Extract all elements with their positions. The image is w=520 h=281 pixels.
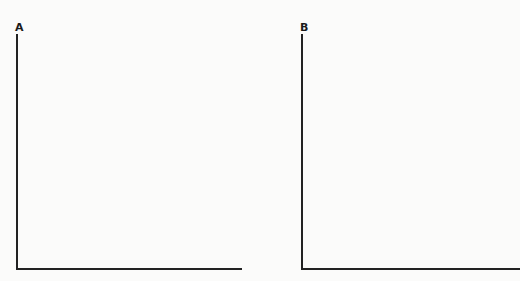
panel-b: B xyxy=(260,0,520,281)
panel-b-label: B xyxy=(300,22,308,33)
panel-a-label: A xyxy=(15,22,24,33)
panel-a-x-axis xyxy=(16,268,242,270)
panel-b-x-axis xyxy=(301,268,520,270)
panel-a-y-axis xyxy=(16,34,18,270)
panel-b-y-axis xyxy=(301,34,303,270)
panel-a: A xyxy=(0,0,260,281)
